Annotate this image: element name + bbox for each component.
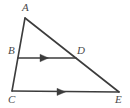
vertex-label-d: D	[77, 45, 85, 56]
vertex-label-a: A	[22, 2, 29, 13]
geometry-figure: A B C D E	[0, 0, 130, 108]
segment-ae	[25, 18, 119, 92]
vertex-label-e: E	[115, 94, 122, 105]
parallel-arrow-icon-ce	[57, 88, 66, 95]
parallel-arrow-icon-bd	[40, 54, 49, 62]
figure-canvas	[0, 0, 130, 108]
vertex-label-c: C	[8, 94, 15, 105]
vertex-label-b: B	[8, 45, 15, 56]
